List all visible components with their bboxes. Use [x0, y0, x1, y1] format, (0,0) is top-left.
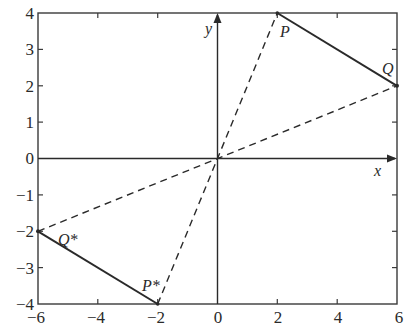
point-q — [395, 84, 399, 88]
y-tick-label: −1 — [16, 186, 34, 205]
y-tick-label: 0 — [26, 149, 35, 168]
label-q: Q — [382, 60, 394, 77]
reflection-diagram: P Q P* Q* x y −6 −4 −2 0 2 4 6 4 3 2 1 0… — [0, 0, 407, 331]
point-q-star — [36, 229, 40, 233]
x-tick-label: 6 — [395, 308, 404, 327]
y-axis-label: y — [203, 20, 213, 38]
x-tick-label: 0 — [214, 308, 223, 327]
x-tick-label: −4 — [87, 308, 106, 327]
y-tick-label: 2 — [26, 77, 35, 96]
y-tick-label: −4 — [16, 295, 35, 314]
segment-pq — [277, 13, 397, 86]
y-tick-label: 3 — [26, 40, 35, 59]
segment-p-star-q-star — [38, 231, 158, 304]
x-tick-label: 4 — [334, 308, 343, 327]
y-tick-labels: 4 3 2 1 0 −1 −2 −3 −4 — [16, 4, 35, 314]
label-p: P — [279, 23, 290, 40]
x-axis-label: x — [373, 162, 381, 179]
point-p — [276, 11, 280, 15]
y-tick-label: −3 — [16, 259, 34, 278]
point-p-star — [156, 302, 160, 306]
label-q-star: Q* — [58, 231, 78, 248]
x-tick-labels: −6 −4 −2 0 2 4 6 — [27, 308, 403, 327]
y-tick-label: 1 — [26, 113, 35, 132]
x-tick-label: −2 — [147, 308, 165, 327]
y-tick-label: 4 — [26, 4, 35, 23]
label-p-star: P* — [141, 277, 160, 294]
x-tick-label: 2 — [274, 308, 283, 327]
y-tick-label: −2 — [16, 222, 34, 241]
